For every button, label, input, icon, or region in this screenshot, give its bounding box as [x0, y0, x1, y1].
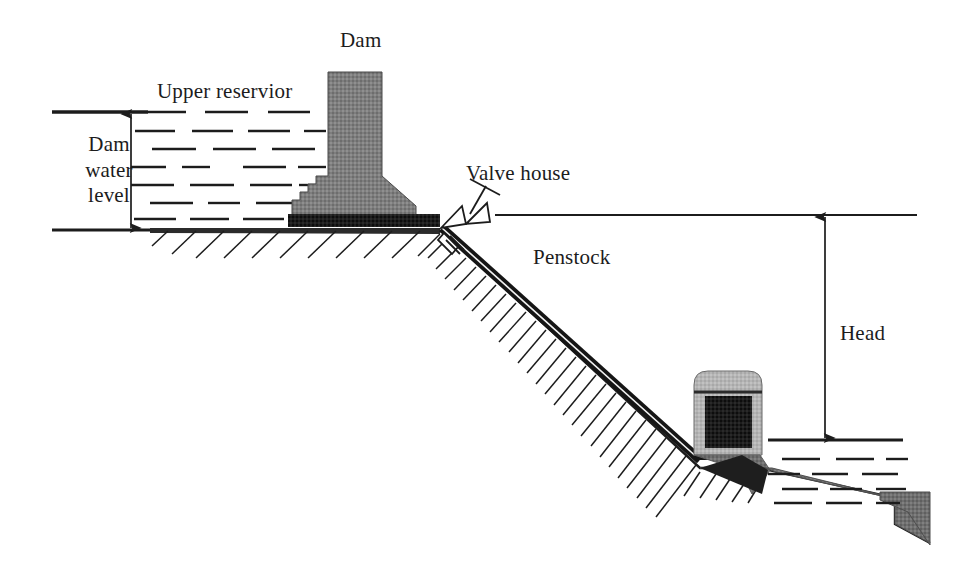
ground-hatching-slope — [428, 240, 696, 517]
powerhouse — [694, 371, 762, 455]
label-dam-water-level: Dam water level — [57, 132, 161, 209]
label-penstock: Penstock — [533, 245, 610, 271]
label-valve-house: Valve house — [466, 161, 570, 187]
label-dam: Dam — [340, 28, 381, 54]
diagram-canvas — [0, 0, 956, 579]
label-head: Head — [840, 321, 885, 347]
label-upper-reservoir: Upper reservior — [157, 79, 292, 105]
dam-foundation-band — [288, 214, 440, 227]
ground-surface-line — [150, 230, 930, 543]
hydro-dam-diagram: Dam Upper reservior Dam water level Valv… — [0, 0, 956, 579]
ground-hatching-flat — [152, 231, 440, 258]
valve-house — [438, 179, 500, 254]
powerhouse-turbine-block — [705, 396, 752, 448]
